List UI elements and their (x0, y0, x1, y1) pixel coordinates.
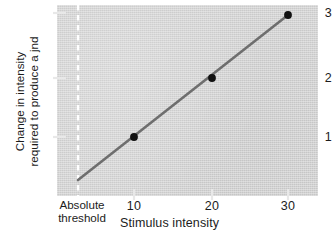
y-axis-title-line2: required to produce a jnd (26, 14, 40, 190)
y-axis-title: Change in intensity required to produce … (13, 14, 40, 190)
y-axis-title-line1: Change in intensity (13, 14, 27, 190)
data-point-2 (208, 74, 216, 82)
data-point-1 (130, 133, 138, 141)
y-tick-label-3: 3 (286, 7, 332, 20)
y-tick-label-2: 2 (286, 72, 332, 85)
y-tick-label-1: 1 (286, 131, 332, 144)
x-tick-label-30: 30 (268, 200, 308, 213)
x-tick-label-20: 20 (192, 200, 232, 213)
absolute-threshold-label-line1: Absolute (46, 199, 118, 212)
y-axis-tick-marks (53, 13, 66, 137)
absolute-threshold-label-line2: threshold (46, 212, 118, 225)
x-axis-title: Stimulus intensity (120, 216, 310, 230)
x-tick-label-10: 10 (114, 200, 154, 213)
figure-canvas: 3 2 1 10 20 30 Absolute threshold Stimul… (0, 0, 332, 239)
data-line-series-1 (78, 15, 288, 180)
absolute-threshold-label: Absolute threshold (46, 199, 118, 224)
